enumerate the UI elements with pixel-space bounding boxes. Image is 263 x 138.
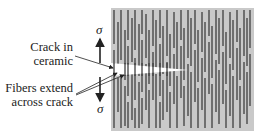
fiber-reinforced-ceramic-diagram: σ σ Crack in ceramic Fibers extend acros… [0,0,263,138]
stress-label-top: σ [96,22,102,38]
fibers-label: Fibers extend across crack [5,81,73,109]
crack-label: Crack in ceramic [30,40,73,68]
fibers-label-line2: across crack [5,95,73,109]
fibers-label-line1: Fibers extend [5,81,73,95]
diagram-canvas [0,0,263,138]
crack-label-line1: Crack in [30,40,73,54]
crack-label-line2: ceramic [30,54,73,68]
fiber-pointer-1-arrow-icon [76,73,117,94]
crack-pointer-arrow-icon [75,56,113,68]
stress-label-bottom: σ [97,101,103,117]
